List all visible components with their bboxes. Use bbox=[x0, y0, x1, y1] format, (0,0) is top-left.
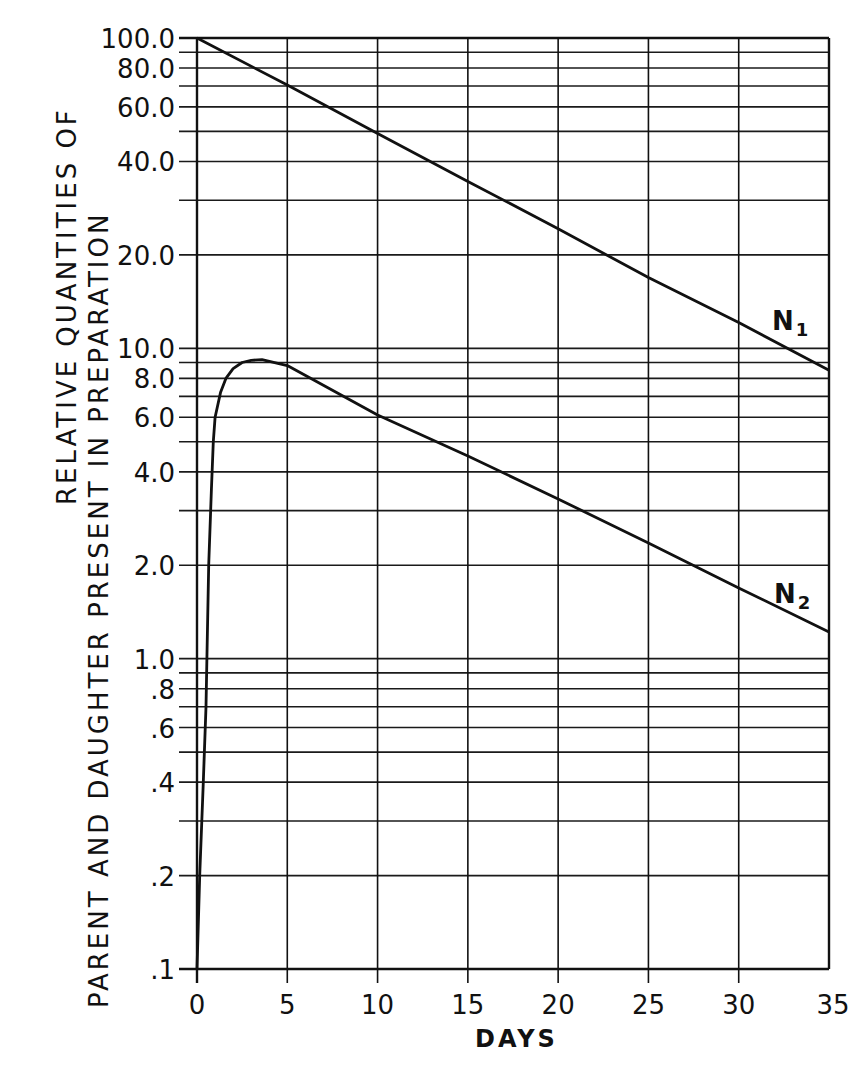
y-tick-label: 100.0 bbox=[101, 24, 175, 54]
y-tick-label: .4 bbox=[150, 768, 175, 798]
x-tick-label: 20 bbox=[542, 990, 575, 1020]
y-tick-label: 8.0 bbox=[134, 364, 175, 394]
y-tick-label: .8 bbox=[150, 675, 175, 705]
y-tick-label: 80.0 bbox=[117, 54, 175, 84]
series-label-n2: N2 bbox=[774, 579, 810, 613]
y-tick-label: 4.0 bbox=[134, 458, 175, 488]
grid-lines bbox=[179, 38, 829, 983]
x-tick-label: 0 bbox=[189, 990, 206, 1020]
x-axis-ticks: 05101520253035 bbox=[189, 990, 850, 1020]
x-tick-label: 15 bbox=[451, 990, 484, 1020]
series-line-n2 bbox=[197, 360, 829, 969]
series-line-n1 bbox=[197, 38, 829, 370]
x-tick-label: 5 bbox=[279, 990, 296, 1020]
y-tick-label: .1 bbox=[150, 955, 175, 985]
y-tick-label: .2 bbox=[150, 862, 175, 892]
y-tick-label: 40.0 bbox=[117, 147, 175, 177]
y-tick-label: 1.0 bbox=[134, 645, 175, 675]
y-axis-label-line1: RELATIVE QUANTITIES OF bbox=[52, 107, 82, 505]
series-label-n1: N1 bbox=[772, 306, 808, 340]
decay-chart: 100.080.060.040.020.010.08.06.04.02.01.0… bbox=[0, 0, 865, 1075]
x-tick-label: 30 bbox=[722, 990, 755, 1020]
y-tick-label: 6.0 bbox=[134, 403, 175, 433]
y-tick-label: .6 bbox=[150, 714, 175, 744]
x-axis-label: DAYS bbox=[475, 1025, 558, 1053]
y-tick-label: 10.0 bbox=[117, 334, 175, 364]
series-lines bbox=[197, 38, 829, 969]
series-labels: N1N2 bbox=[772, 306, 810, 613]
y-tick-label: 60.0 bbox=[117, 93, 175, 123]
x-tick-label: 10 bbox=[361, 990, 394, 1020]
y-axis-label-line2: PARENT AND DAUGHTER PRESENT IN PREPARATI… bbox=[84, 212, 114, 1008]
x-tick-label: 35 bbox=[816, 990, 849, 1020]
y-tick-label: 2.0 bbox=[134, 551, 175, 581]
x-tick-label: 25 bbox=[632, 990, 665, 1020]
y-tick-label: 20.0 bbox=[117, 241, 175, 271]
